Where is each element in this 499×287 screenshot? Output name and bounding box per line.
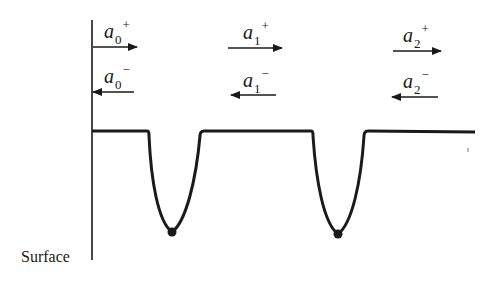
symbol: a	[403, 70, 413, 92]
well-1-minimum-dot	[334, 230, 343, 239]
superscript: +	[422, 21, 429, 36]
superscript: −	[123, 62, 130, 77]
label-a2-minus: a2−	[403, 71, 429, 94]
label-a0-plus: a0+	[104, 21, 130, 44]
subscript: 2	[414, 36, 421, 51]
speck-mark	[467, 148, 469, 152]
label-a0-minus: a0−	[104, 66, 130, 89]
subscript: 0	[115, 32, 122, 47]
subscript: 2	[414, 82, 421, 97]
superscript: +	[262, 18, 269, 33]
symbol: a	[104, 65, 114, 87]
superscript: +	[123, 17, 130, 32]
subscript: 1	[254, 33, 261, 48]
subscript: 1	[254, 81, 261, 96]
well-0-minimum-dot	[168, 228, 177, 237]
label-a2-plus: a2+	[403, 25, 429, 48]
symbol: a	[104, 20, 114, 42]
subscript: 0	[115, 77, 122, 92]
label-a1-plus: a1+	[243, 22, 269, 45]
superscript: −	[422, 67, 429, 82]
surface-label: Surface	[21, 249, 70, 265]
symbol: a	[243, 21, 253, 43]
potential-profile-curve	[92, 131, 475, 234]
symbol: a	[403, 24, 413, 46]
superscript: −	[262, 66, 269, 81]
symbol: a	[243, 69, 253, 91]
label-a1-minus: a1−	[243, 70, 269, 93]
